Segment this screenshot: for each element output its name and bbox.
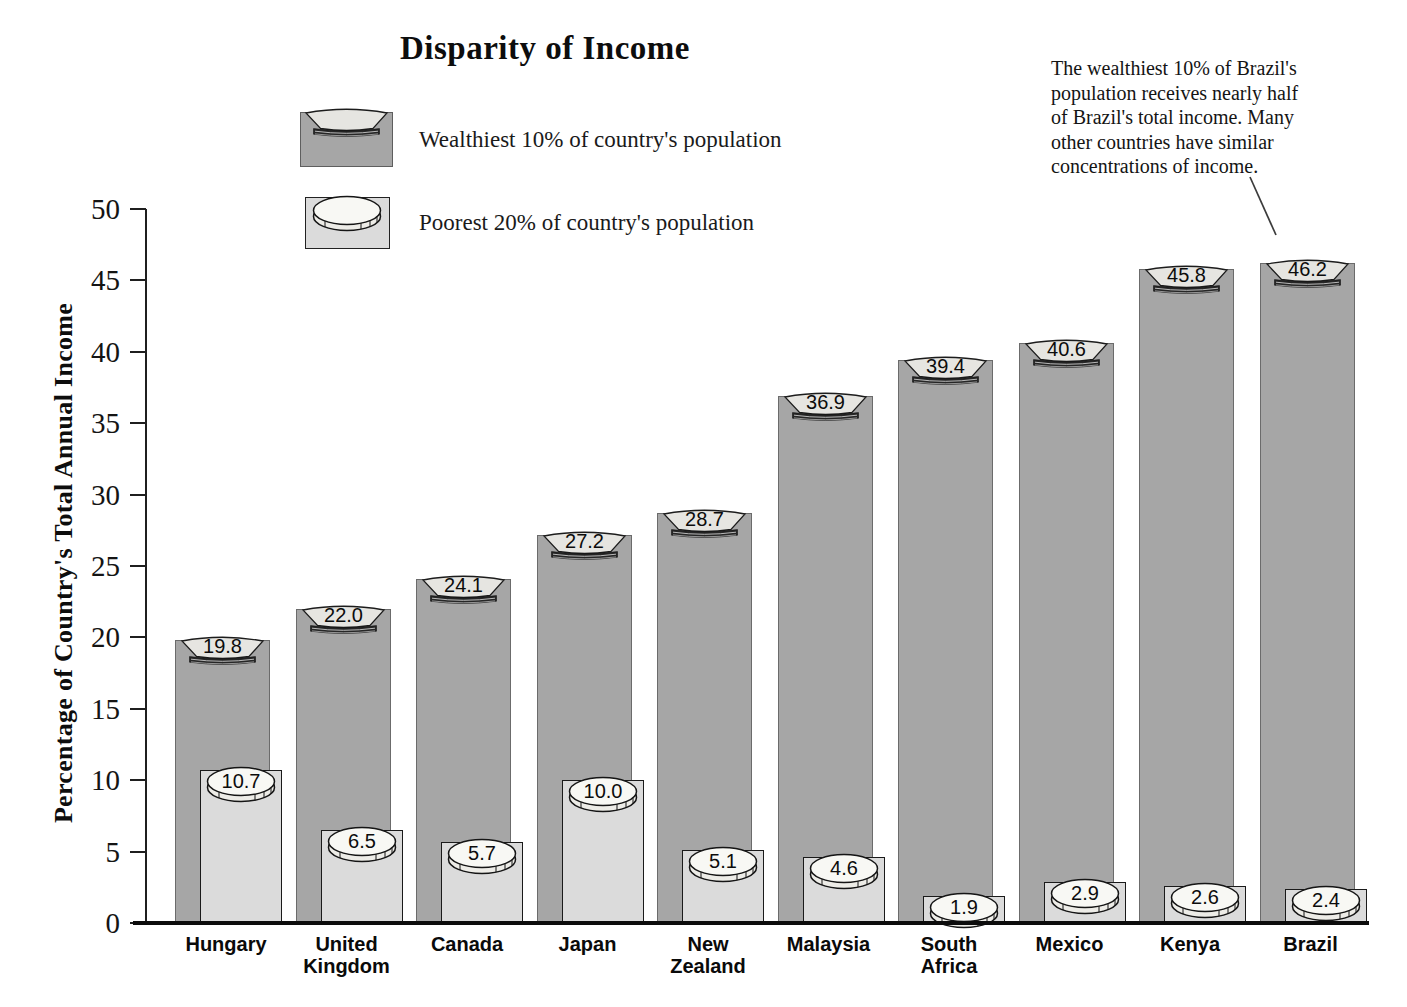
disc-value-label: 10.0 bbox=[563, 772, 643, 818]
x-axis-line bbox=[133, 921, 1369, 925]
y-axis-tick-label: 30 bbox=[44, 478, 120, 512]
svg-text:24.1: 24.1 bbox=[444, 573, 483, 595]
svg-text:4.6: 4.6 bbox=[830, 857, 858, 879]
svg-text:40.6: 40.6 bbox=[1047, 338, 1086, 360]
y-axis-tick-label: 35 bbox=[44, 406, 120, 440]
y-axis-tick bbox=[130, 565, 146, 567]
bar-cap-value-label: 19.8 bbox=[175, 631, 270, 667]
x-axis-label: Mexico bbox=[1009, 933, 1131, 955]
y-axis-tick bbox=[130, 422, 146, 424]
y-axis-tick-label: 40 bbox=[44, 335, 120, 369]
y-axis-tick-label: 25 bbox=[44, 549, 120, 583]
svg-text:10.0: 10.0 bbox=[583, 780, 622, 802]
bar-cap-value-label: 24.1 bbox=[416, 570, 511, 606]
svg-text:2.9: 2.9 bbox=[1071, 882, 1099, 904]
x-axis-label: Brazil bbox=[1250, 933, 1372, 955]
svg-text:28.7: 28.7 bbox=[685, 508, 724, 530]
y-axis-tick bbox=[130, 636, 146, 638]
svg-text:36.9: 36.9 bbox=[806, 391, 845, 413]
income-disparity-chart: Disparity of Income Wealthiest 10% of co… bbox=[0, 0, 1407, 1007]
bar-cap-value-label: 22.0 bbox=[296, 600, 391, 636]
disc-value-label: 4.6 bbox=[804, 849, 884, 895]
y-axis-tick bbox=[130, 851, 146, 853]
disc-value-label: 1.9 bbox=[924, 888, 1004, 934]
y-axis-tick-label: 20 bbox=[44, 620, 120, 654]
x-axis-label: New Zealand bbox=[647, 933, 769, 978]
x-axis-label: South Africa bbox=[888, 933, 1010, 978]
svg-text:5.1: 5.1 bbox=[709, 850, 737, 872]
bar-wealthiest bbox=[1260, 263, 1355, 925]
bar-cap-value-label: 27.2 bbox=[537, 526, 632, 562]
disc-value-label: 2.4 bbox=[1286, 881, 1366, 927]
x-axis-label: Japan bbox=[527, 933, 649, 955]
disc-value-label: 5.7 bbox=[442, 834, 522, 880]
x-axis-label: Malaysia bbox=[768, 933, 890, 955]
disc-value-label: 5.1 bbox=[683, 842, 763, 888]
bar-wealthiest bbox=[778, 396, 873, 925]
y-axis-tick-label: 5 bbox=[44, 835, 120, 869]
x-axis-label: United Kingdom bbox=[286, 933, 408, 978]
bar-cap-value-label: 28.7 bbox=[657, 504, 752, 540]
disc-value-label: 10.7 bbox=[201, 762, 281, 808]
svg-text:2.6: 2.6 bbox=[1191, 886, 1219, 908]
y-axis-tick-label: 0 bbox=[44, 906, 120, 940]
bar-wealthiest bbox=[1019, 343, 1114, 925]
y-axis-tick bbox=[130, 494, 146, 496]
svg-text:22.0: 22.0 bbox=[324, 603, 363, 625]
svg-text:27.2: 27.2 bbox=[565, 529, 604, 551]
x-axis-label: Hungary bbox=[165, 933, 287, 955]
y-axis-tick bbox=[130, 708, 146, 710]
bar-cap-value-label: 39.4 bbox=[898, 351, 993, 387]
x-axis-label: Canada bbox=[406, 933, 528, 955]
svg-text:39.4: 39.4 bbox=[926, 355, 965, 377]
y-axis-tick-label: 50 bbox=[44, 192, 120, 226]
y-axis-tick bbox=[130, 208, 146, 210]
svg-text:45.8: 45.8 bbox=[1167, 263, 1206, 285]
bar-cap-value-label: 46.2 bbox=[1260, 254, 1355, 290]
svg-text:1.9: 1.9 bbox=[950, 896, 978, 918]
y-axis-tick bbox=[130, 779, 146, 781]
y-axis-tick-label: 45 bbox=[44, 263, 120, 297]
y-axis-tick bbox=[130, 279, 146, 281]
disc-value-label: 6.5 bbox=[322, 822, 402, 868]
y-axis-tick-label: 15 bbox=[44, 692, 120, 726]
disc-value-label: 2.9 bbox=[1045, 874, 1125, 920]
svg-text:5.7: 5.7 bbox=[468, 842, 496, 864]
bar-cap-value-label: 40.6 bbox=[1019, 334, 1114, 370]
bar-cap-value-label: 36.9 bbox=[778, 387, 873, 423]
svg-text:6.5: 6.5 bbox=[348, 830, 376, 852]
svg-text:46.2: 46.2 bbox=[1288, 258, 1327, 280]
disc-value-label: 2.6 bbox=[1165, 878, 1245, 924]
x-axis-label: Kenya bbox=[1129, 933, 1251, 955]
bar-wealthiest bbox=[898, 360, 993, 925]
plot-area: 05101520253035404550 19.8 10.7 Hungary 2… bbox=[0, 0, 1407, 1007]
svg-text:19.8: 19.8 bbox=[203, 635, 242, 657]
y-axis-line bbox=[145, 209, 147, 925]
bar-cap-value-label: 45.8 bbox=[1139, 260, 1234, 296]
bar-wealthiest bbox=[1139, 269, 1234, 925]
y-axis-tick bbox=[130, 351, 146, 353]
y-axis-tick-label: 10 bbox=[44, 763, 120, 797]
svg-text:10.7: 10.7 bbox=[222, 770, 261, 792]
svg-text:2.4: 2.4 bbox=[1312, 889, 1340, 911]
